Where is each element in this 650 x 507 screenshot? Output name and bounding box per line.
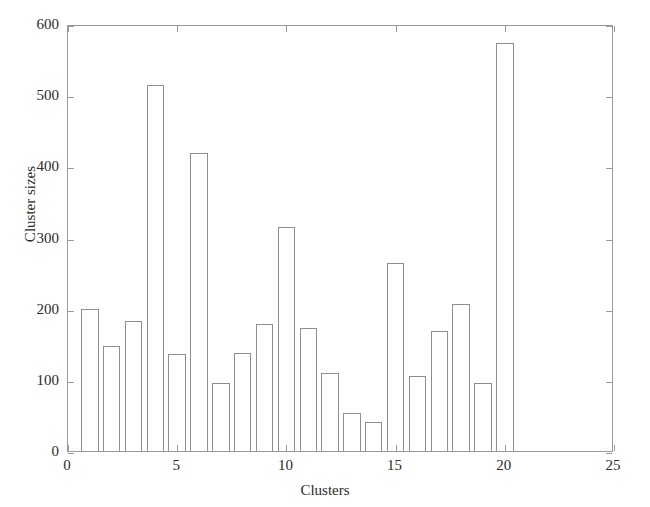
bar [300,328,317,451]
x-axis-tick [614,445,615,451]
bar [387,263,404,451]
bar [431,331,448,451]
y-axis-tick [68,311,74,312]
y-axis-tick-label: 0 [7,444,59,459]
x-axis-tick [177,26,178,32]
x-axis-tick [505,445,506,451]
bar [409,376,426,451]
x-axis-tick-label: 5 [156,458,196,473]
x-axis-tick [286,26,287,32]
bar [190,153,207,451]
x-axis-tick [614,26,615,32]
y-axis-tick [606,168,612,169]
bar [474,383,491,451]
bar [147,85,164,451]
bar [452,304,469,451]
bar [212,383,229,451]
bar [343,413,360,451]
bar [278,227,295,451]
y-axis-tick-label: 100 [7,373,59,388]
y-axis-tick [68,168,74,169]
y-axis-tick [68,382,74,383]
bar [125,321,142,451]
bar-chart-figure: 0100200300400500600 0510152025 Clusters … [0,0,650,507]
plot-area [67,25,613,452]
y-axis-tick-label: 500 [7,88,59,103]
y-axis-tick [68,453,74,454]
y-axis-tick [606,26,612,27]
x-axis-tick-label: 0 [47,458,87,473]
y-axis-tick [606,453,612,454]
x-axis-tick-label: 15 [375,458,415,473]
y-axis-tick [606,382,612,383]
x-axis-tick [396,445,397,451]
x-axis-tick [68,445,69,451]
bar [365,422,382,451]
x-axis-label: Clusters [0,482,650,499]
bar [234,353,251,451]
x-axis-tick [177,445,178,451]
y-axis-tick [606,97,612,98]
bar [81,309,98,451]
y-axis-label-wrapper: Cluster sizes [21,104,39,304]
bar [496,43,513,451]
y-axis-tick [606,311,612,312]
bar [103,346,120,451]
bar [256,324,273,451]
y-axis-tick [68,240,74,241]
x-axis-tick-label: 25 [593,458,633,473]
y-axis-tick-label: 600 [7,17,59,32]
x-axis-tick-label: 10 [265,458,305,473]
x-axis-tick [505,26,506,32]
y-axis-label: Cluster sizes [22,166,38,242]
x-axis-tick-label: 20 [484,458,524,473]
bars-layer [68,26,612,451]
y-axis-tick [606,240,612,241]
bar [168,354,185,451]
y-axis-tick [68,97,74,98]
x-axis-tick [286,445,287,451]
x-axis-tick [68,26,69,32]
bar [321,373,338,451]
x-axis-tick [396,26,397,32]
